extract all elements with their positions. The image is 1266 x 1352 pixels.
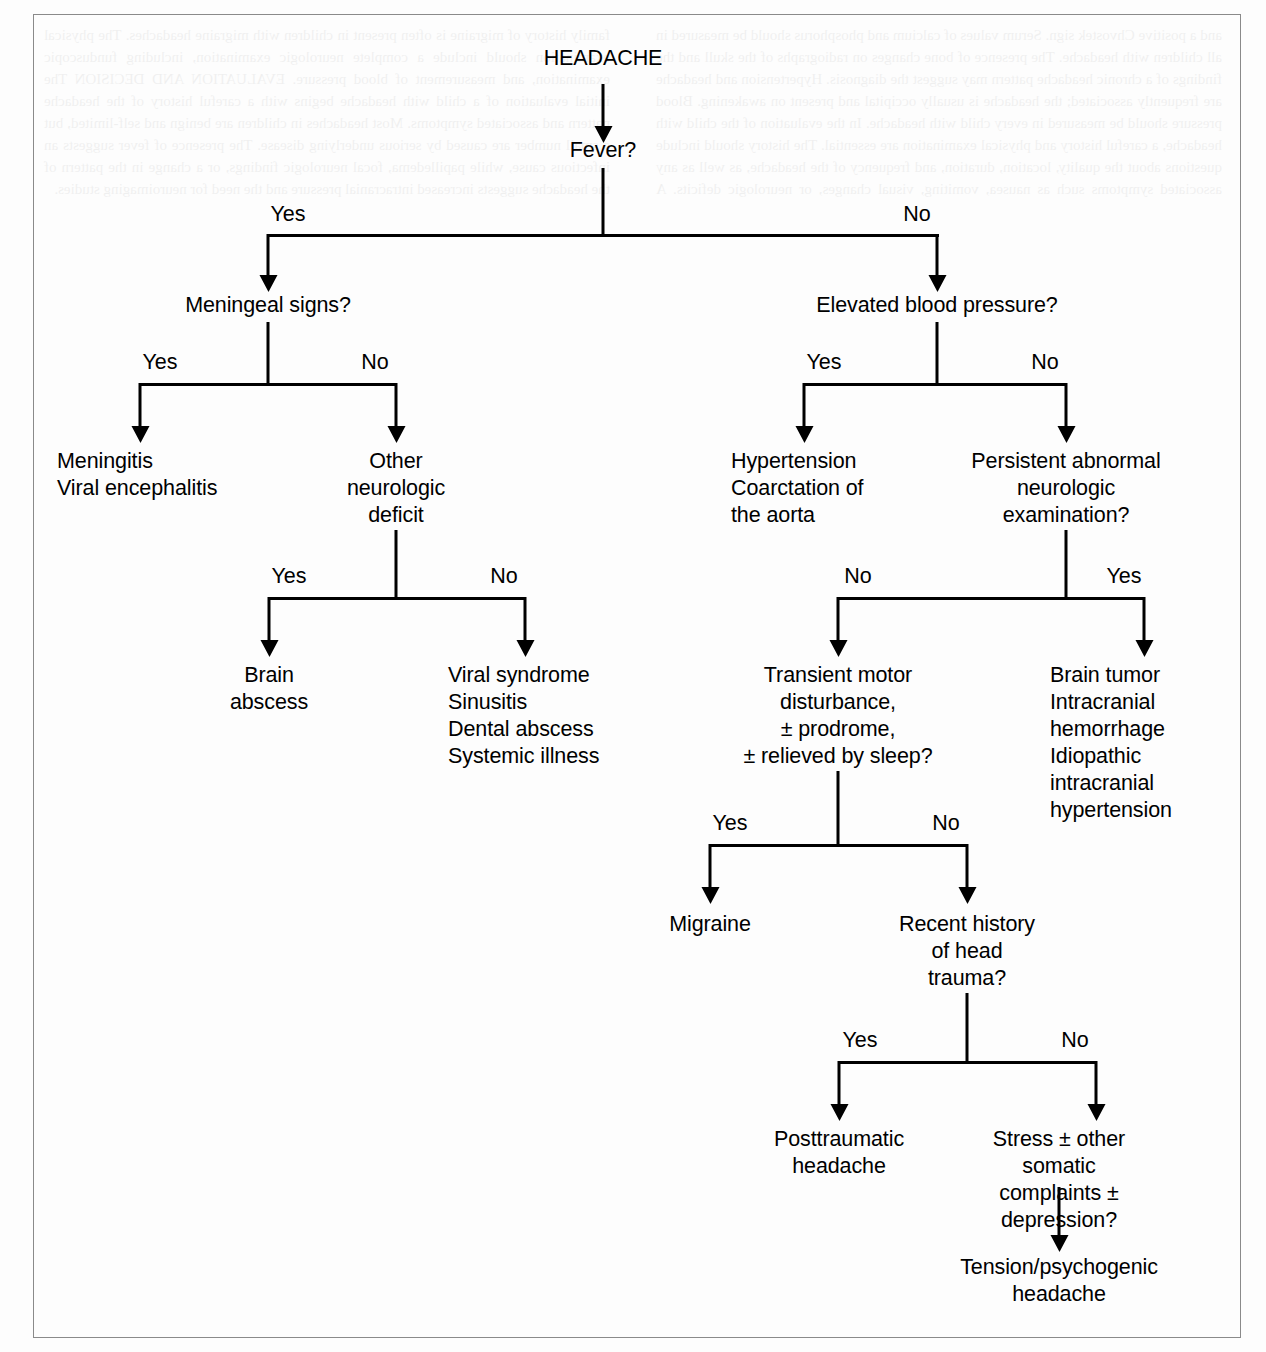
- connector-neuro-deficit-split: [268, 597, 526, 600]
- label-neuro-deficit-yes: Yes: [271, 564, 306, 588]
- node-tension-psychogenic-headache: Tension/psychogenic headache: [960, 1254, 1158, 1308]
- node-meningeal-signs: Meningeal signs?: [185, 292, 351, 319]
- label-fever-yes: Yes: [270, 202, 305, 226]
- connector-neuro-deficit-stem: [395, 530, 398, 599]
- arrow-fever-yes: [267, 234, 270, 277]
- node-viral-syndrome-group: Viral syndrome Sinusitis Dental abscess …: [448, 662, 599, 770]
- arrow-stress-to-tension: [1058, 1187, 1061, 1237]
- node-posttraumatic-headache: Posttraumatic headache: [774, 1126, 904, 1180]
- node-meningitis: Meningitis Viral encephalitis: [57, 448, 217, 502]
- arrow-meningeal-no: [395, 383, 398, 428]
- label-bp-yes: Yes: [806, 350, 841, 374]
- label-bp-no: No: [1031, 350, 1058, 374]
- node-other-neurologic-deficit: Other neurologic deficit: [347, 448, 445, 529]
- connector-bp-stem: [936, 322, 939, 385]
- connector-fever-stem: [602, 168, 605, 236]
- label-transient-yes: Yes: [712, 811, 747, 835]
- arrow-neuro-deficit-no: [524, 597, 527, 642]
- label-persistent-yes: Yes: [1106, 564, 1141, 588]
- connector-trauma-stem: [966, 993, 969, 1063]
- node-fever: Fever?: [570, 137, 636, 164]
- label-meningeal-yes: Yes: [142, 350, 177, 374]
- label-trauma-yes: Yes: [842, 1028, 877, 1052]
- node-persistent-abnormal-neuro-exam: Persistent abnormal neurologic examinati…: [971, 448, 1160, 529]
- node-migraine: Migraine: [669, 911, 751, 938]
- label-transient-no: No: [932, 811, 959, 835]
- arrow-persistent-no: [837, 597, 840, 642]
- connector-persistent-split: [837, 597, 1145, 600]
- arrow-meningeal-yes: [139, 383, 142, 428]
- node-brain-tumor-group: Brain tumor Intracranial hemorrhage Idio…: [1050, 662, 1172, 824]
- figure-page: and a positive Chvostek sign. Serum valu…: [0, 0, 1266, 1352]
- label-meningeal-no: No: [361, 350, 388, 374]
- label-neuro-deficit-no: No: [490, 564, 517, 588]
- connector-bp-split: [803, 383, 1067, 386]
- label-trauma-no: No: [1061, 1028, 1088, 1052]
- connector-persistent-stem: [1065, 530, 1068, 599]
- connector-fever-split: [267, 234, 939, 237]
- arrow-transient-no: [966, 844, 969, 889]
- arrow-trauma-yes: [838, 1061, 841, 1106]
- node-head-trauma: Recent history of head trauma?: [899, 911, 1035, 992]
- arrow-neuro-deficit-yes: [268, 597, 271, 642]
- arrow-trauma-no: [1095, 1061, 1098, 1106]
- label-fever-no: No: [903, 202, 930, 226]
- arrow-persistent-yes: [1143, 597, 1146, 642]
- connector-meningeal-stem: [267, 322, 270, 385]
- arrow-bp-yes: [803, 383, 806, 428]
- arrow-headache-to-fever: [602, 84, 605, 128]
- node-elevated-blood-pressure: Elevated blood pressure?: [816, 292, 1057, 319]
- arrow-fever-no: [936, 234, 939, 277]
- label-persistent-no: No: [844, 564, 871, 588]
- arrow-transient-yes: [709, 844, 712, 889]
- node-hypertension-group: Hypertension Coarctation of the aorta: [731, 448, 863, 529]
- connector-transient-split: [709, 844, 968, 847]
- connector-trauma-split: [838, 1061, 1097, 1064]
- node-transient-motor-disturbance: Transient motor disturbance, ± prodrome,…: [743, 662, 932, 770]
- arrow-bp-no: [1065, 383, 1068, 428]
- connector-transient-stem: [837, 771, 840, 846]
- connector-meningeal-split: [139, 383, 397, 386]
- node-brain-abscess: Brain abscess: [230, 662, 308, 716]
- node-headache: HEADACHE: [544, 45, 663, 72]
